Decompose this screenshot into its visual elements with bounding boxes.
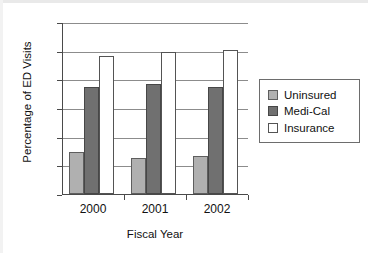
bar-insurance-2000 bbox=[99, 56, 114, 194]
x-tick-label: 2002 bbox=[186, 203, 248, 216]
legend-item-medi-cal[interactable]: Medi-Cal bbox=[268, 103, 352, 119]
y-axis: Percentage of ED Visits 0102030405060 bbox=[0, 0, 62, 253]
y-tick-mark bbox=[57, 195, 62, 196]
legend-item-insurance[interactable]: Insurance bbox=[268, 120, 352, 136]
dark-gray-swatch bbox=[268, 106, 278, 116]
x-tick-label: 2000 bbox=[62, 203, 124, 216]
plot-area bbox=[62, 23, 248, 195]
chart-legend: UninsuredMedi-CalInsurance bbox=[259, 79, 360, 143]
bar-uninsured-2000 bbox=[69, 152, 84, 194]
bars-layer bbox=[63, 23, 248, 194]
bar-medi-cal-2001 bbox=[146, 84, 161, 194]
bar-group bbox=[187, 23, 249, 194]
legend-item-uninsured[interactable]: Uninsured bbox=[268, 87, 352, 103]
light-gray-swatch bbox=[268, 90, 278, 100]
x-tick-mark bbox=[124, 195, 125, 200]
bar-insurance-2001 bbox=[161, 52, 176, 194]
x-tick-mark bbox=[248, 195, 249, 200]
bar-uninsured-2002 bbox=[193, 156, 208, 194]
bar-insurance-2002 bbox=[223, 50, 238, 194]
bar-uninsured-2001 bbox=[131, 158, 146, 194]
bar-group bbox=[63, 23, 125, 194]
bar-medi-cal-2002 bbox=[208, 87, 223, 195]
y-axis-title: Percentage of ED Visits bbox=[21, 14, 33, 190]
x-tick-mark bbox=[186, 195, 187, 200]
x-tick-label: 2001 bbox=[124, 203, 186, 216]
white-swatch bbox=[268, 123, 278, 133]
legend-label: Insurance bbox=[284, 122, 335, 134]
legend-label: Uninsured bbox=[284, 89, 336, 101]
legend-label: Medi-Cal bbox=[284, 105, 330, 117]
x-axis-title: Fiscal Year bbox=[62, 228, 248, 241]
bar-medi-cal-2000 bbox=[84, 87, 99, 195]
chart-figure: Percentage of ED Visits 0102030405060 Fi… bbox=[0, 0, 368, 253]
bar-group bbox=[125, 23, 187, 194]
